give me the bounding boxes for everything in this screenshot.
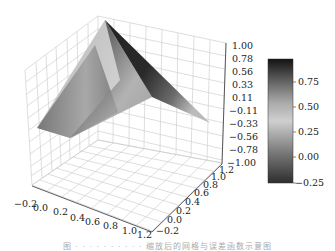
svg-text:0.56: 0.56 — [232, 66, 253, 77]
svg-text:0.11: 0.11 — [232, 92, 253, 103]
svg-text:0.8: 0.8 — [103, 220, 118, 231]
svg-text:1.00: 1.00 — [232, 40, 253, 51]
svg-text:0.00: 0.00 — [298, 151, 319, 162]
svg-text:0.4: 0.4 — [70, 212, 85, 223]
svg-text:−0.78: −0.78 — [229, 144, 258, 155]
surface — [37, 20, 210, 138]
svg-text:−1.00: −1.00 — [227, 157, 256, 168]
svg-text:1.0: 1.0 — [122, 225, 137, 236]
svg-text:−0.2: −0.2 — [156, 225, 179, 236]
svg-text:0.50: 0.50 — [298, 101, 319, 112]
svg-text:−0.11: −0.11 — [229, 105, 258, 116]
svg-text:0.25: 0.25 — [298, 126, 319, 137]
svg-text:−0.25: −0.25 — [295, 177, 324, 188]
svg-text:0.75: 0.75 — [298, 76, 319, 87]
z-axis-line — [222, 43, 226, 164]
surface-plot: −0.2 0.0 0.2 0.4 0.6 0.8 1.0 1.2 −0.2 0.… — [0, 0, 335, 251]
y-axis-ticks: −0.2 0.0 0.2 0.4 0.6 0.8 1.0 1.2 — [156, 164, 234, 236]
svg-text:0.0: 0.0 — [33, 202, 48, 213]
svg-text:0.2: 0.2 — [53, 206, 68, 217]
colorbar: 0.75 0.50 0.25 0.00 −0.25 — [268, 59, 324, 188]
svg-text:0.6: 0.6 — [85, 216, 100, 227]
svg-text:−0.33: −0.33 — [229, 118, 258, 129]
svg-text:0.78: 0.78 — [232, 53, 253, 64]
svg-text:0.33: 0.33 — [232, 79, 253, 90]
z-axis-ticks: 1.00 0.78 0.56 0.33 0.11 −0.11 −0.33 −0.… — [227, 40, 258, 168]
svg-text:1.2: 1.2 — [137, 229, 152, 240]
svg-text:−0.56: −0.56 — [229, 131, 258, 142]
figure-caption: 图 · · · · · · · · · · 缩放后的网格与误差函数示意图 — [0, 240, 335, 251]
